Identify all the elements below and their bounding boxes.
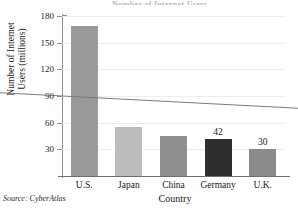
y-axis-tick-label: 30 [28, 145, 54, 154]
gridline [62, 16, 285, 17]
bar-china [160, 136, 187, 176]
chart-title-clipped: Number of Internet Users [112, 0, 262, 5]
y-axis-tick-label: 90 [28, 92, 54, 101]
x-axis-title: Country [120, 193, 230, 204]
x-axis-line [58, 176, 290, 177]
x-axis-label: U.K. [234, 180, 292, 191]
bar-uk [249, 149, 276, 176]
y-axis-tick-label: 180 [28, 12, 54, 21]
bar-germany [205, 139, 232, 176]
y-axis-title: Number of Internet Users (millions) [6, 0, 28, 123]
y-axis-title-line-2: Users (millions) [17, 0, 28, 123]
bar-us [71, 26, 98, 176]
bar-value-label: 30 [243, 137, 283, 147]
bar-japan [115, 127, 142, 176]
y-axis-tick [57, 96, 62, 97]
y-axis-tick [57, 123, 62, 124]
y-axis-tick [57, 149, 62, 150]
bar-value-label: 42 [198, 127, 238, 137]
y-axis-tick [57, 43, 62, 44]
plot-area: 4230 [62, 16, 285, 176]
bar-chart: Number of Internet Users Number of Inter… [0, 0, 298, 214]
y-axis-tick-label: 60 [28, 119, 54, 128]
y-axis-title-line-1: Number of Internet [6, 0, 17, 123]
source-note: Source: CyberAtlas [3, 194, 66, 203]
y-axis-tick [57, 16, 62, 17]
y-axis-tick-label: 120 [28, 65, 54, 74]
y-axis-tick-label: 150 [28, 39, 54, 48]
y-axis-tick [57, 69, 62, 70]
